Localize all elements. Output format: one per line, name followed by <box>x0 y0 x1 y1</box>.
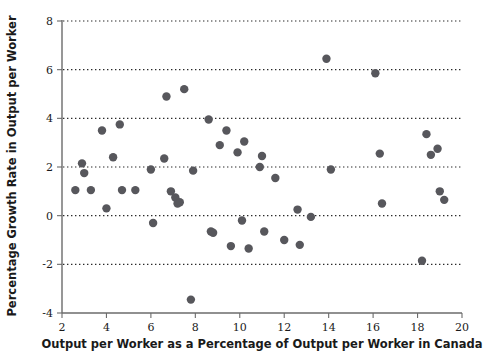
y-tick-label: -2 <box>42 258 53 271</box>
data-point <box>147 165 155 173</box>
x-tick-label: 10 <box>233 321 247 334</box>
data-point <box>376 149 384 157</box>
data-point <box>260 227 268 235</box>
data-point <box>427 151 435 159</box>
x-axis-title: Output per Worker as a Percentage of Out… <box>41 337 482 351</box>
y-tick-label: 8 <box>46 15 53 28</box>
data-point <box>118 186 126 194</box>
data-point <box>280 236 288 244</box>
data-point <box>98 126 106 134</box>
x-tick-label: 4 <box>103 321 110 334</box>
data-point <box>322 55 330 63</box>
data-point <box>176 198 184 206</box>
y-tick-label: 2 <box>46 161 53 174</box>
y-axis-title: Percentage Growth Rate in Output per Wor… <box>5 15 19 316</box>
x-tick-labels-group: 2468101214161820 <box>59 321 470 334</box>
data-point <box>233 148 241 156</box>
data-point <box>222 126 230 134</box>
x-tick-label: 20 <box>455 321 469 334</box>
data-point <box>116 120 124 128</box>
x-tick-label: 18 <box>411 321 425 334</box>
data-point <box>227 242 235 250</box>
x-tick-label: 14 <box>322 321 336 334</box>
data-point <box>256 163 264 171</box>
data-point <box>71 186 79 194</box>
data-points-group <box>71 55 448 304</box>
data-point <box>244 244 252 252</box>
data-point <box>109 153 117 161</box>
y-tick-label: 0 <box>46 210 53 223</box>
x-tick-label: 8 <box>192 321 199 334</box>
data-point <box>204 115 212 123</box>
data-point <box>216 141 224 149</box>
data-point <box>296 241 304 249</box>
y-tick-marks-group <box>57 21 62 313</box>
data-point <box>307 213 315 221</box>
data-point <box>440 196 448 204</box>
data-point <box>187 295 195 303</box>
data-point <box>422 130 430 138</box>
y-tick-label: 6 <box>46 64 53 77</box>
y-tick-labels-group: -4-202468 <box>42 15 53 320</box>
data-point <box>371 69 379 77</box>
data-point <box>149 219 157 227</box>
x-tick-label: 12 <box>277 321 291 334</box>
y-tick-label: -4 <box>42 307 53 320</box>
data-point <box>102 204 110 212</box>
data-point <box>209 229 217 237</box>
x-tick-label: 6 <box>147 321 154 334</box>
data-point <box>180 85 188 93</box>
data-point <box>160 154 168 162</box>
data-point <box>327 165 335 173</box>
y-tick-label: 4 <box>46 112 53 125</box>
x-tick-label: 2 <box>59 321 66 334</box>
data-point <box>293 205 301 213</box>
data-point <box>240 137 248 145</box>
x-tick-label: 16 <box>366 321 380 334</box>
data-point <box>131 186 139 194</box>
scatter-plot-figure: 2468101214161820 -4-202468 Output per Wo… <box>0 0 485 361</box>
data-point <box>436 187 444 195</box>
data-point <box>189 166 197 174</box>
data-point <box>78 159 86 167</box>
data-point <box>238 216 246 224</box>
data-point <box>418 256 426 264</box>
data-point <box>433 145 441 153</box>
data-point <box>80 169 88 177</box>
data-point <box>258 152 266 160</box>
chart-canvas: 2468101214161820 -4-202468 Output per Wo… <box>0 0 485 361</box>
x-tick-marks-group <box>62 313 462 318</box>
data-point <box>271 174 279 182</box>
data-point <box>162 92 170 100</box>
data-point <box>378 199 386 207</box>
data-point <box>87 186 95 194</box>
